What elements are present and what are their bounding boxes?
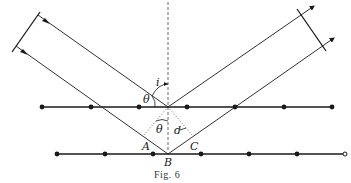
angle-theta-lower-arc [156,120,168,122]
reflected-ray-upper [168,6,314,107]
label-theta-upper: θ [143,93,150,106]
label-B: B [163,156,172,169]
bragg-diffraction-diagram: i θ θ d A B C Fig. 6 [0,0,351,183]
label-A: A [141,140,150,153]
reflected-wavefront [297,9,326,51]
label-theta-lower: θ [156,123,163,136]
label-d: d [174,124,181,137]
lower-lattice-row [55,152,347,157]
angle-i-arrowhead [164,82,168,86]
upper-lattice-row [40,105,335,110]
figure-caption: Fig. 6 [154,169,180,180]
label-i: i [156,76,160,89]
angle-i-arc [152,84,168,96]
reflected-ray-lower [168,38,334,154]
label-C: C [190,140,199,153]
